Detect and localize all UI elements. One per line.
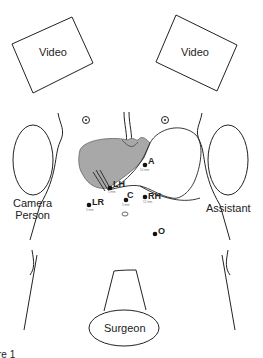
port-lh-size: 5 mm — [108, 190, 116, 194]
camera-person-label-line1: Camera — [13, 197, 52, 209]
umbilicus-icon — [122, 212, 128, 216]
port-lr-size: 5 mm — [86, 208, 94, 212]
port-lr-label: LR — [92, 197, 104, 207]
video-monitor-left-label: Video — [39, 46, 67, 58]
port-a-icon — [143, 163, 148, 168]
port-c-size: 5 mm — [122, 203, 130, 207]
port-a-label: A — [148, 156, 155, 166]
camera-person-position — [13, 125, 53, 195]
port-c-label: C — [127, 190, 134, 200]
video-monitor-right-label: Video — [181, 46, 209, 58]
port-lh-label: LH — [113, 179, 125, 189]
port-rh-icon — [143, 195, 148, 200]
assistant-position — [208, 125, 248, 195]
port-o-label: O — [158, 226, 165, 236]
surgeon-stool — [104, 270, 146, 311]
assistant-label: Assistant — [206, 202, 251, 214]
camera-person-label: Camera Person — [13, 197, 52, 221]
camera-person-label-line2: Person — [13, 209, 52, 221]
surgeon-label: Surgeon — [104, 322, 146, 334]
port-lr-icon — [87, 203, 92, 208]
port-o-icon — [153, 232, 158, 237]
port-rh-size: 12 mm — [143, 200, 152, 204]
figure-caption: re 1 — [0, 349, 15, 358]
port-a-size: 10 mm — [140, 168, 149, 172]
